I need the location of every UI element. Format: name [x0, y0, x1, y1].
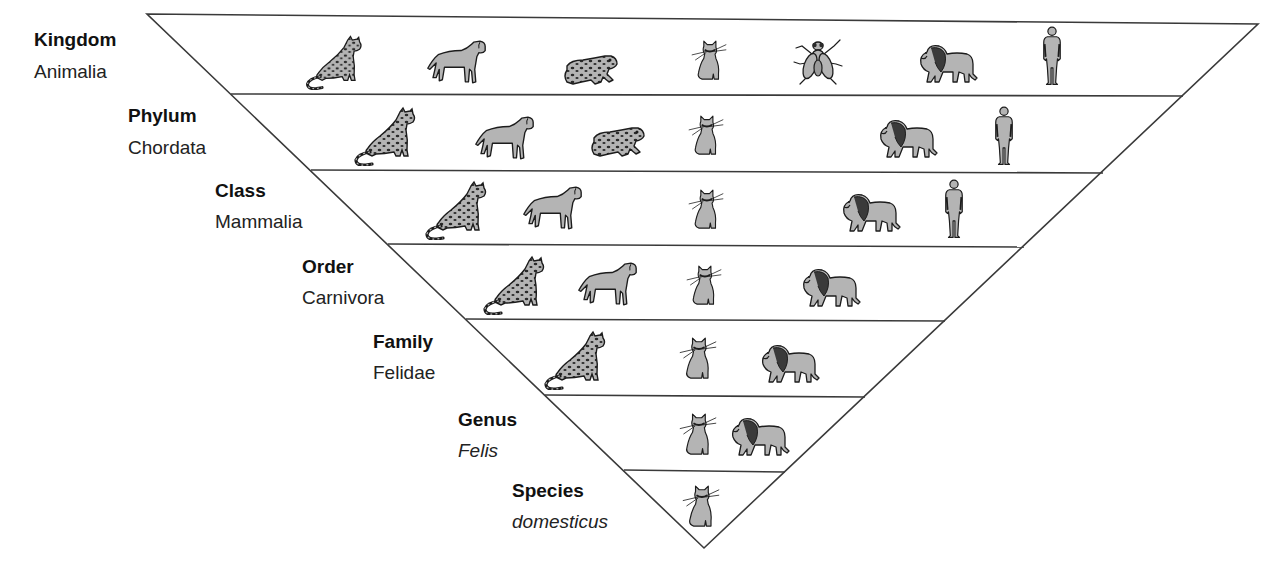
cat-icon: [687, 112, 725, 160]
rank-label-class: Class: [215, 181, 266, 200]
human-icon: [1041, 24, 1063, 88]
cat-icon: [690, 38, 728, 84]
lion-icon: [873, 117, 943, 161]
taxon-label-felis: Felis: [458, 441, 498, 460]
rank-label-genus: Genus: [458, 410, 517, 429]
taxonomy-diagram: Kingdom Animalia Phylum Chordata Class M…: [0, 0, 1276, 573]
rank-label-phylum: Phylum: [128, 106, 197, 125]
divider-phylum-class: [311, 170, 1103, 173]
dog-icon: [575, 260, 641, 308]
fly-icon: [790, 36, 846, 88]
cat-icon: [681, 482, 721, 532]
lion-icon: [796, 266, 866, 310]
leopard-icon: [420, 180, 492, 240]
frog-icon: [560, 52, 622, 88]
divider-class-order: [388, 244, 1024, 247]
lion-icon: [755, 342, 825, 386]
dog-icon: [520, 184, 586, 232]
rank-label-species: Species: [512, 481, 584, 500]
taxon-label-chordata: Chordata: [128, 138, 206, 157]
divider-genus-species: [624, 470, 785, 472]
lion-icon: [836, 191, 906, 235]
cat-icon: [678, 334, 718, 384]
dog-icon: [472, 114, 538, 162]
rank-label-kingdom: Kingdom: [34, 30, 116, 49]
taxon-label-felidae: Felidae: [373, 363, 435, 382]
taxon-label-mammalia: Mammalia: [215, 212, 303, 231]
leopard-icon: [539, 330, 611, 390]
leopard-icon: [478, 255, 550, 315]
frog-icon: [587, 124, 649, 160]
cat-icon: [685, 262, 723, 310]
rank-label-order: Order: [302, 257, 354, 276]
lion-icon: [913, 42, 983, 86]
leopard-icon: [302, 33, 366, 91]
cat-icon: [687, 186, 725, 234]
divider-family-genus: [545, 395, 865, 397]
taxon-label-domesticus: domesticus: [512, 512, 608, 531]
taxon-label-animalia: Animalia: [34, 62, 107, 81]
divider-kingdom-phylum: [231, 94, 1183, 96]
lion-icon: [725, 415, 795, 459]
human-icon: [993, 104, 1015, 168]
rank-label-family: Family: [373, 332, 433, 351]
cat-icon: [678, 410, 718, 460]
taxon-label-carnivora: Carnivora: [302, 288, 384, 307]
human-icon: [943, 176, 965, 242]
leopard-icon: [348, 106, 422, 166]
divider-order-family: [466, 319, 945, 321]
dog-icon: [424, 38, 490, 86]
